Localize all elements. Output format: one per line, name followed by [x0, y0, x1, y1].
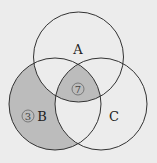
set-label-b: B	[37, 109, 47, 124]
count-b-only-value: 3	[25, 111, 31, 122]
venn-diagram: A B C 3 7	[0, 0, 157, 163]
set-label-a: A	[72, 42, 83, 57]
count-abc-value: 7	[75, 84, 81, 95]
set-label-c: C	[109, 109, 119, 124]
venn-svg: A B C 3 7	[0, 0, 157, 163]
